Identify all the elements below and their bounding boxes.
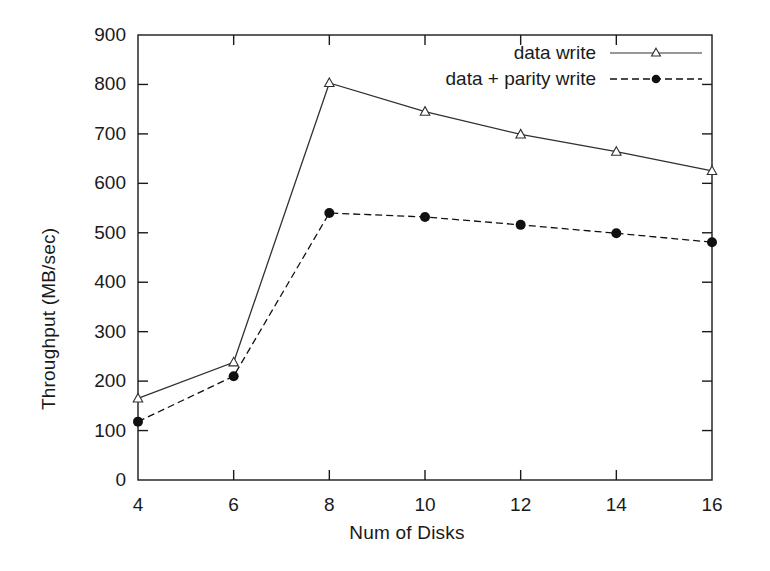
- legend-sample-solid-triangle: [608, 43, 704, 63]
- y-tick-label: 400: [42, 271, 126, 293]
- legend-item-data-parity-write: data + parity write: [404, 66, 704, 92]
- legend-label-data-write: data write: [514, 42, 596, 64]
- x-tick-label: 8: [324, 494, 335, 516]
- x-axis-title: Num of Disks: [0, 522, 770, 544]
- y-tick-label: 200: [42, 370, 126, 392]
- data-point-1: [325, 78, 335, 87]
- data-point-2: [707, 237, 717, 247]
- x-tick-label: 12: [510, 494, 531, 516]
- y-tick-label: 700: [42, 123, 126, 145]
- x-tick-label: 10: [414, 494, 435, 516]
- y-axis-title: Throughput (MB/sec): [38, 110, 60, 410]
- x-tick-label: 14: [606, 494, 627, 516]
- data-point-2: [324, 208, 334, 218]
- legend-item-data-write: data write: [404, 40, 704, 66]
- series-line-1: [138, 83, 712, 398]
- y-tick-label: 900: [42, 24, 126, 46]
- axis-ticks: [138, 35, 712, 480]
- data-point-1: [229, 357, 239, 366]
- x-tick-label: 6: [228, 494, 239, 516]
- series-layer: [133, 78, 717, 427]
- legend: data write data + parity write: [404, 40, 704, 92]
- data-point-2: [133, 417, 143, 427]
- data-point-2: [229, 371, 239, 381]
- y-tick-label: 800: [42, 73, 126, 95]
- legend-label-data-parity-write: data + parity write: [446, 68, 597, 90]
- legend-sample-dashed-circle: [608, 69, 704, 89]
- y-tick-label: 600: [42, 172, 126, 194]
- chart-figure: Throughput (MB/sec) Num of Disks 0100200…: [0, 0, 770, 571]
- series-line-2: [138, 213, 712, 422]
- y-tick-label: 500: [42, 222, 126, 244]
- y-tick-label: 100: [42, 420, 126, 442]
- plot-frame: [138, 35, 712, 480]
- y-tick-label: 0: [42, 469, 126, 491]
- data-point-2: [611, 228, 621, 238]
- data-point-2: [516, 220, 526, 230]
- x-tick-label: 16: [701, 494, 722, 516]
- x-tick-label: 4: [133, 494, 144, 516]
- y-tick-label: 300: [42, 321, 126, 343]
- data-point-2: [420, 212, 430, 222]
